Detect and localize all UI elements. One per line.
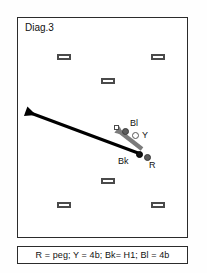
- ball-bk: [136, 151, 143, 158]
- legend-text: R = peg; Y = 4b; Bk= H1; Bl = 4b: [36, 250, 170, 260]
- ball-y: [132, 132, 139, 139]
- main-shot-arrow-head: [24, 106, 36, 115]
- hoop-bottom-right: [151, 202, 165, 208]
- ball-label-bl: Bl: [130, 119, 138, 128]
- diagram-title: Diag.3: [25, 22, 54, 33]
- marker-square-bl: [114, 125, 119, 130]
- ball-label-bk: Bk: [118, 157, 129, 166]
- hoop-top-right: [151, 54, 165, 60]
- hoop-top-left: [57, 54, 71, 60]
- croquet-court-panel: Diag.3 BlYBkR: [17, 17, 188, 238]
- ball-bl: [122, 128, 129, 135]
- hoop-upper-center: [101, 78, 115, 84]
- ball-label-y: Y: [142, 131, 148, 140]
- ball-label-r: R: [149, 161, 156, 170]
- hoop-bottom-left: [57, 202, 71, 208]
- diagram-page: Diag.3 BlYBkR R = peg; Y = 4b; Bk= H1; B…: [0, 0, 207, 273]
- legend-box: R = peg; Y = 4b; Bk= H1; Bl = 4b: [17, 246, 188, 264]
- hoop-lower-center: [101, 178, 115, 184]
